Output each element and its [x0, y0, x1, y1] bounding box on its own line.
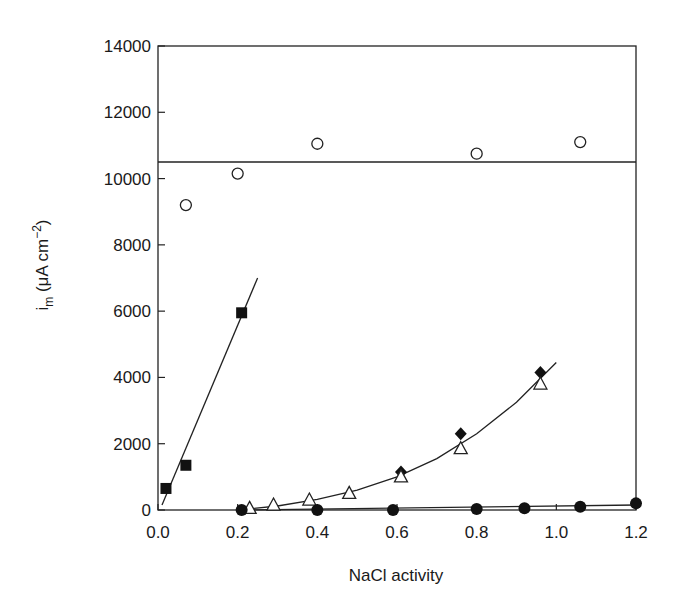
filled-square-point	[160, 483, 171, 494]
y-tick-label: 2000	[113, 435, 151, 454]
y-tick-label: 8000	[113, 236, 151, 255]
plot-border	[158, 46, 636, 510]
x-tick-label: 0.0	[146, 523, 170, 542]
open-circle-point	[232, 168, 243, 179]
y-tick-label: 0	[142, 501, 151, 520]
open-circle-point	[471, 148, 482, 159]
plot-frame	[158, 46, 636, 510]
chart: 0.00.20.40.60.81.01.20200040006000800010…	[0, 0, 684, 616]
filled-circle-point	[236, 504, 248, 516]
y-tick-label: 10000	[104, 170, 151, 189]
open-circle-point	[180, 200, 191, 211]
filled-circle-point	[387, 504, 399, 516]
filled-circle-point	[518, 502, 530, 514]
open-triangle-point	[454, 442, 467, 454]
x-tick-label: 1.2	[624, 523, 648, 542]
y-tick-label: 4000	[113, 368, 151, 387]
y-tick-label: 12000	[104, 103, 151, 122]
open-triangles-fit-line	[238, 363, 557, 511]
x-axis-label: NaCl activity	[349, 566, 444, 585]
y-tick-label: 6000	[113, 302, 151, 321]
filled-square-point	[236, 307, 247, 318]
filled-circle-point	[574, 501, 586, 513]
filled-circle-point	[471, 503, 483, 515]
x-tick-label: 0.8	[465, 523, 489, 542]
data-points	[160, 137, 642, 516]
filled-circle-point	[630, 497, 642, 509]
fit-lines	[158, 162, 636, 510]
open-circle-point	[575, 137, 586, 148]
x-tick-label: 0.6	[385, 523, 409, 542]
y-tick-label: 14000	[104, 37, 151, 56]
filled-circle-point	[311, 504, 323, 516]
x-tick-label: 0.2	[226, 523, 250, 542]
x-tick-label: 1.0	[545, 523, 569, 542]
open-triangle-point	[267, 498, 280, 510]
filled-diamond-point	[455, 427, 467, 440]
open-circle-point	[312, 138, 323, 149]
filled-square-point	[180, 460, 191, 471]
open-triangle-point	[303, 493, 316, 505]
svg-text:im (μA cm−2): im (μA cm−2)	[30, 219, 56, 310]
x-tick-label: 0.4	[306, 523, 330, 542]
y-axis-label: im (μA cm−2)	[30, 219, 56, 310]
